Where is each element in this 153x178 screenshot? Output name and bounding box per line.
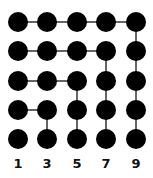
dot-diagram <box>0 0 153 178</box>
label-9: 9 <box>126 156 146 171</box>
label-7: 7 <box>96 156 116 171</box>
label-3: 3 <box>37 156 57 171</box>
gnomon-7-line <box>18 51 106 139</box>
label-1: 1 <box>8 156 28 171</box>
label-5: 5 <box>67 156 87 171</box>
